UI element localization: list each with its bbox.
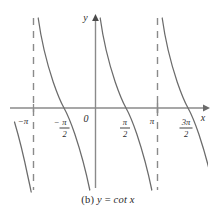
tick-label-pi-over-2-numerator: π (123, 117, 128, 127)
tick-label-three-pi-over-2-denominator: 2 (184, 129, 189, 139)
cotangent-curves (15, 18, 214, 192)
caption-lhs: y (97, 194, 102, 205)
tick-label-neg-pi-over-2-numerator: π (62, 117, 67, 127)
tick-label-pi-over-2: π 2 (120, 117, 130, 139)
tick-label-neg-pi-text: −π (18, 116, 29, 126)
x-axis (10, 104, 210, 111)
origin-label: 0 (84, 113, 89, 124)
cotangent-graph-figure: y x 0 −π − π 2 π 2 π 3π 2 (0, 0, 216, 218)
figure-caption: (b) y = cot x (0, 194, 216, 205)
caption-prefix: (b) (81, 194, 94, 205)
cot-branch-left-partial (15, 122, 32, 192)
tick-label-pi-over-2-denominator: 2 (123, 129, 128, 139)
y-axis (92, 14, 99, 188)
tick-label-neg-pi-over-2-denominator: 2 (62, 129, 67, 139)
tick-label-three-pi-over-2-numerator: 3π (181, 117, 191, 127)
tick-label-pi: π (150, 116, 155, 126)
x-axis-label: x (200, 112, 206, 123)
caption-variable: x (130, 194, 135, 205)
tick-label-three-pi-over-2: 3π 2 (180, 117, 193, 139)
cotangent-plot: y x 0 −π − π 2 π 2 π 3π 2 (0, 0, 216, 218)
cot-branch-left (38, 18, 90, 190)
tick-label-pi-text: π (150, 116, 155, 126)
caption-equals: = (105, 194, 111, 205)
tick-label-neg-pi-over-2: − π 2 (54, 117, 70, 139)
y-axis-label: y (82, 12, 88, 23)
tick-label-neg-pi-over-2-sign: − (54, 117, 60, 127)
caption-function: cot (114, 194, 127, 205)
tick-label-neg-pi: −π (18, 116, 29, 126)
cot-branch-right (162, 18, 214, 190)
cot-branch-middle (100, 18, 152, 190)
